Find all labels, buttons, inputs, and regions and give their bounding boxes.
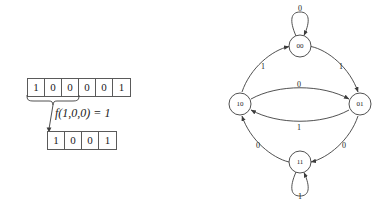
output-tape-cell: 0 [65,132,82,149]
edge-label-self-loop-11: 1 [298,192,302,201]
brace-leader-line [49,105,53,129]
state-node-label-01: 01 [350,100,370,108]
edge-10-to-01 [251,88,349,99]
edge-01-to-10 [251,110,349,121]
rule-label-text: f(1,0,0) = 1 [55,106,110,120]
state-node-label-10: 10 [230,100,250,108]
edge-10-to-00 [242,47,289,93]
self-loop-00 [292,12,308,36]
rule-label: f(1,0,0) = 1 [55,106,110,121]
edge-label-10-to-00: 1 [261,62,265,71]
edge-label-10-to-01: 0 [297,80,301,89]
output-tape-cell: 1 [99,132,116,149]
output-tape-cell: 0 [82,132,99,149]
brace-path [27,95,79,105]
edge-label-01-to-11: 0 [342,141,346,150]
edge-00-to-01 [311,47,358,93]
edge-label-01-to-10: 1 [297,123,301,132]
output-tape: 1 0 0 1 [47,131,117,150]
state-node-label-00: 00 [290,42,310,50]
edge-label-self-loop-00: 0 [298,4,302,13]
state-node-label-11: 11 [290,158,310,166]
state-transition-diagram: 00 10 01 11 1 1 0 1 0 0 0 1 [218,4,376,204]
edge-11-to-10 [242,116,289,162]
edge-label-11-to-10: 0 [256,141,260,150]
edge-label-00-to-01: 1 [339,62,343,71]
edge-01-to-11 [311,116,358,162]
output-tape-cell: 1 [48,132,65,149]
figure-canvas: 1 0 0 0 0 1 f(1,0,0) = 1 1 0 0 1 [0,0,376,205]
